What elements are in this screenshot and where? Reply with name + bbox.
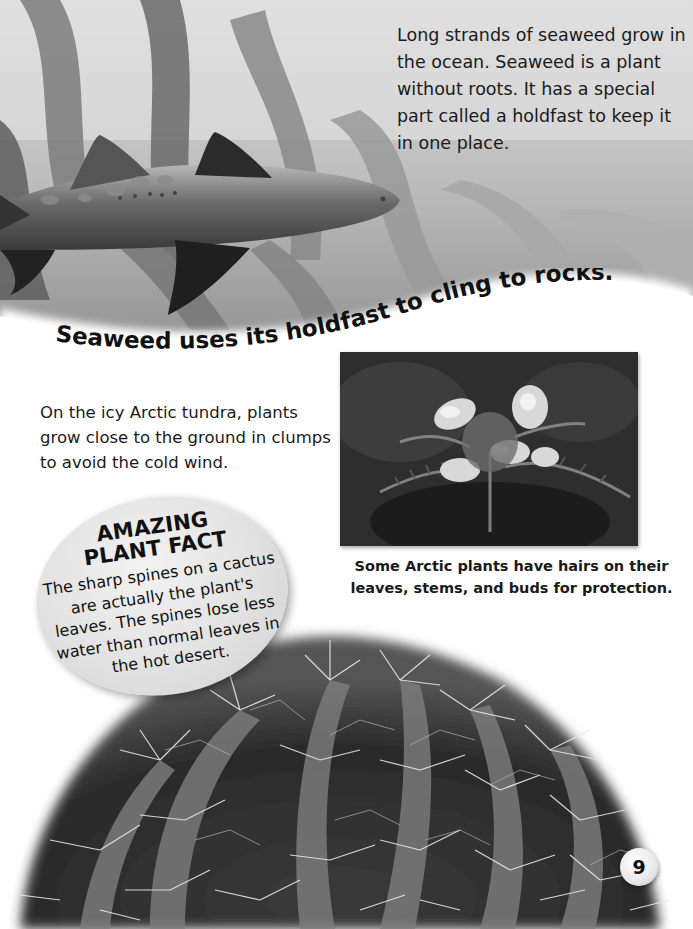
page-number-badge: 9 — [620, 848, 658, 886]
tundra-body-text: On the icy Arctic tundra, plants grow cl… — [40, 400, 340, 475]
arctic-photo-caption: Some Arctic plants have hairs on their l… — [330, 555, 693, 599]
amazing-plant-fact-bubble: AMAZING PLANT FACT The sharp spines on a… — [23, 480, 300, 711]
arctic-plant-photo — [340, 352, 638, 546]
seaweed-intro-text: Long strands of seaweed grow in the ocea… — [397, 22, 687, 157]
